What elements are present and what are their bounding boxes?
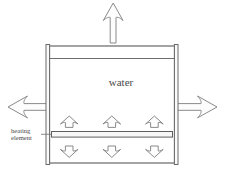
heating-element-label-line2: element bbox=[11, 134, 32, 141]
water-heater-diagram-root: water heating element bbox=[0, 0, 225, 176]
heating-element bbox=[41, 132, 173, 138]
water-heater-diagram: water heating element bbox=[0, 0, 225, 176]
water-label: water bbox=[109, 76, 134, 88]
heating-element-label-line1: heating bbox=[11, 127, 31, 134]
